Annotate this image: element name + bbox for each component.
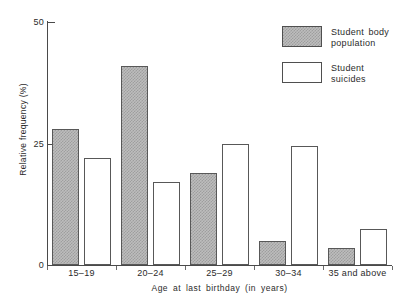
bar-series-b-4	[360, 229, 387, 265]
bar-series-a-4	[328, 248, 355, 265]
x-axis-tick-0	[47, 266, 48, 270]
x-axis-tick-end	[392, 266, 393, 270]
legend-label-line1: Student body	[331, 27, 389, 38]
bar-series-b-1	[153, 182, 180, 265]
bar-series-b-3	[291, 146, 318, 265]
y-tick-label-0: 0	[20, 261, 44, 270]
x-axis-tick-2	[185, 266, 186, 270]
legend-label-student-suicides: Student suicides	[331, 62, 402, 84]
legend-swatch-icon-shaded	[282, 26, 322, 47]
bar-chart: 50 25 0 Relative frequency (%) 15–1920–2…	[0, 0, 403, 301]
x-axis-category-label-4: 35 and above	[323, 268, 392, 278]
x-axis-tick-4	[323, 266, 324, 270]
y-tick-0	[48, 265, 55, 266]
bar-series-a-1	[121, 66, 148, 265]
bar-series-a-2	[190, 173, 217, 265]
legend: Student body population Student suicides	[282, 26, 402, 98]
x-axis-tick-1	[116, 266, 117, 270]
x-axis-line	[47, 265, 392, 266]
x-axis-category-label-3: 30–34	[254, 268, 323, 278]
bar-series-a-0	[52, 129, 79, 265]
bar-series-b-0	[84, 158, 111, 265]
legend-label-line1: Student suicides	[331, 63, 402, 84]
bar-series-a-3	[259, 241, 286, 265]
bar-series-b-2	[222, 144, 249, 266]
x-axis-category-label-2: 25–29	[185, 268, 254, 278]
legend-swatch-icon-open	[282, 62, 322, 83]
legend-item-student-body-population[interactable]: Student body population	[282, 26, 402, 48]
legend-item-student-suicides[interactable]: Student suicides	[282, 62, 402, 84]
x-axis-tick-3	[254, 266, 255, 270]
legend-label-line2: population	[331, 38, 389, 49]
legend-label-student-body-population: Student body population	[331, 26, 389, 48]
x-axis-category-label-1: 20–24	[116, 268, 185, 278]
y-axis-title: Relative frequency (%)	[19, 60, 28, 200]
x-axis-title: Age at last birthday (in years)	[47, 283, 392, 293]
y-tick-label-50: 50	[20, 18, 44, 27]
x-axis-category-label-0: 15–19	[47, 268, 116, 278]
